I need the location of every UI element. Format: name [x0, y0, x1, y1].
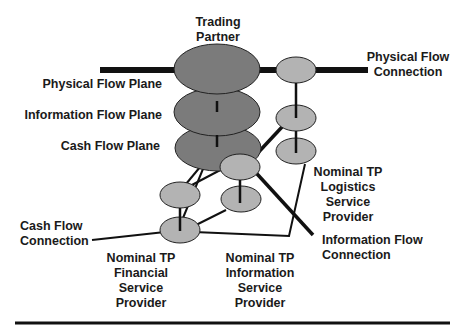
physical-flow-connection-label: Physical Flow Connection — [363, 50, 453, 80]
title-line-1: Trading — [188, 15, 248, 30]
label-line: Provider — [308, 210, 388, 225]
label-line: Connection — [20, 234, 89, 249]
label-line: Service — [220, 281, 300, 296]
cash-flow-plane-label: Cash Flow Plane — [20, 139, 160, 154]
label-line: Connection — [363, 65, 453, 80]
label-line: Information — [220, 266, 300, 281]
trading-partner-title: Trading Partner — [188, 15, 248, 45]
tp-physical-flow-plane-ellipse — [174, 44, 260, 94]
label-line: Information Flow — [322, 233, 423, 248]
label-line: Service — [101, 281, 181, 296]
label-line: Nominal TP — [101, 251, 181, 266]
label-line: Cash Flow — [20, 219, 89, 234]
label-line: Nominal TP — [220, 251, 300, 266]
cash-flow-connection-label: Cash Flow Connection — [20, 219, 89, 249]
physical-flow-plane-label: Physical Flow Plane — [20, 77, 162, 92]
label-line: Provider — [220, 296, 300, 311]
label-line: Nominal TP — [308, 165, 388, 180]
label-line: Service — [308, 195, 388, 210]
label-line: Provider — [101, 296, 181, 311]
label-line: Physical Flow — [363, 50, 453, 65]
information-flow-connection-label: Information Flow Connection — [322, 233, 423, 263]
label-line: Logistics — [308, 180, 388, 195]
title-line-2: Partner — [188, 30, 248, 45]
info-provider-top-ellipse — [220, 154, 260, 180]
information-flow-plane-label: Information Flow Plane — [10, 108, 162, 123]
label-line: Financial — [101, 266, 181, 281]
financial-provider-label: Nominal TP Financial Service Provider — [101, 251, 181, 311]
logistics-provider-label: Nominal TP Logistics Service Provider — [308, 165, 388, 225]
label-line: Connection — [322, 248, 423, 263]
information-provider-label: Nominal TP Information Service Provider — [220, 251, 300, 311]
logistics-physical-ellipse — [276, 57, 316, 83]
financial-provider-top-ellipse — [160, 182, 200, 208]
cash-flow-connection-line — [92, 232, 165, 240]
